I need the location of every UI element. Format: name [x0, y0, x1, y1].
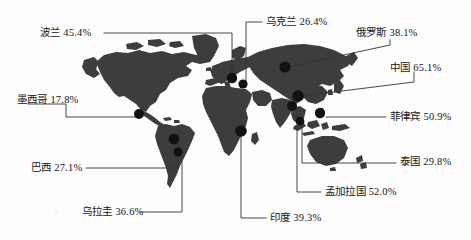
new-zealand-1 [356, 155, 363, 163]
central-america-land [141, 110, 165, 127]
marker-thailand [296, 117, 305, 126]
java-land [302, 131, 315, 136]
madagascar-land [251, 132, 259, 145]
label-thailand: 泰国 29.8% [400, 156, 451, 168]
ireland-land [206, 67, 211, 71]
borneo-land [307, 120, 320, 129]
tasmania-land [330, 167, 336, 171]
marker-poland [227, 73, 237, 83]
north-america-land [96, 50, 214, 112]
caribbean-2 [174, 120, 180, 123]
label-mexico: 墨西哥 17.8% [17, 94, 79, 106]
marker-uruguay [173, 147, 182, 156]
leader-line-india [241, 132, 266, 218]
marker-brazil [169, 134, 180, 145]
label-uruguay: 乌拉圭 36.6% [82, 206, 144, 218]
label-bangladesh: 孟加拉国 52.0% [325, 186, 397, 198]
marker-ukraine [238, 79, 247, 88]
china-east-land [300, 84, 328, 104]
marker-mexico [134, 109, 144, 119]
label-ukraine: 乌克兰 26.4% [266, 16, 328, 28]
canada-arctic-3 [169, 41, 184, 48]
label-philippines: 菲律宾 50.9% [390, 111, 452, 123]
new-guinea-land [332, 124, 350, 131]
marker-china [292, 90, 304, 102]
world-map-infographic: 波兰 45.4% 乌克兰 26.4% 俄罗斯 38.1% 中国 65.1% 菲律… [0, 0, 471, 240]
marker-india [235, 125, 247, 137]
africa-land [202, 86, 252, 156]
label-russia: 俄罗斯 38.1% [356, 27, 418, 39]
marker-philippines [315, 108, 325, 118]
marker-russia [279, 61, 290, 72]
alaska-land [82, 57, 100, 78]
marker-bangladesh [287, 101, 297, 111]
label-poland: 波兰 45.4% [40, 27, 91, 39]
label-india: 印度 39.3% [270, 212, 321, 224]
south-america-land [155, 124, 195, 188]
arabia-land [252, 90, 272, 106]
label-brazil: 巴西 27.1% [31, 162, 82, 174]
label-china: 中国 65.1% [390, 62, 441, 74]
australia-land [307, 136, 348, 166]
caribbean-1 [163, 117, 172, 121]
canada-arctic-1 [126, 42, 144, 50]
sulawesi-land [321, 122, 329, 130]
canada-arctic-2 [148, 39, 166, 47]
